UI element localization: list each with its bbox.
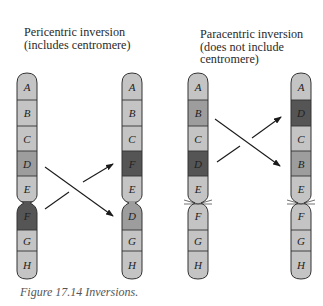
arrow-pericentric-F <box>83 164 113 182</box>
segment-label: H <box>22 259 32 271</box>
segment-label: G <box>128 235 136 247</box>
segment-label: A <box>297 81 305 93</box>
segment-label: D <box>193 158 202 170</box>
arrow-paracentric-D-part1 <box>217 146 240 162</box>
segment-label: B <box>24 107 31 119</box>
arrow-pericentric-F-part1 <box>45 192 69 209</box>
segment-label: A <box>194 81 202 93</box>
chromosome-paracentric-inverted: ADCBEFGH <box>287 73 315 279</box>
chromosome-paracentric-original: ABCDEFGH <box>184 73 212 279</box>
segment-label: C <box>128 133 136 145</box>
segment-label: G <box>23 235 31 247</box>
segment-label: F <box>23 210 31 222</box>
segment-label: G <box>194 235 202 247</box>
segment-label: F <box>194 210 202 222</box>
segment-label: E <box>297 183 305 195</box>
segment-label: B <box>195 107 202 119</box>
chromosomes-group: ABCDEFGHABCFEDGHABCDEFGHADCBEFGH <box>16 73 315 279</box>
segment-label: H <box>296 259 306 271</box>
chromosome-pericentric-original: ABCDEFGH <box>16 73 38 279</box>
arrow-paracentric-B <box>215 119 280 166</box>
segment-label: H <box>193 259 203 271</box>
segment-label: D <box>296 107 305 119</box>
segment-label: E <box>23 183 31 195</box>
segment-label: D <box>22 158 31 170</box>
segment-label: C <box>297 133 305 145</box>
segment-label: E <box>128 183 136 195</box>
segment-label: G <box>297 235 305 247</box>
segment-label: A <box>23 81 31 93</box>
arrow-pericentric-D <box>45 167 113 216</box>
arrows-group <box>45 117 281 216</box>
segment-label: H <box>127 259 137 271</box>
segment-label: D <box>127 210 136 222</box>
inversion-diagram: ABCDEFGHABCFEDGHABCDEFGHADCBEFGH <box>0 0 323 306</box>
segment-label: F <box>128 158 136 170</box>
segment-label: B <box>129 107 136 119</box>
arrow-paracentric-D <box>252 117 281 138</box>
figure-caption: Figure 17.14 Inversions. <box>20 285 138 300</box>
segment-label: E <box>194 183 202 195</box>
segment-label: B <box>298 158 305 170</box>
segment-label: F <box>297 210 305 222</box>
segment-label: C <box>194 133 202 145</box>
chromosome-pericentric-inverted: ABCFEDGH <box>121 73 143 279</box>
segment-label: A <box>128 81 136 93</box>
segment-label: C <box>23 133 31 145</box>
